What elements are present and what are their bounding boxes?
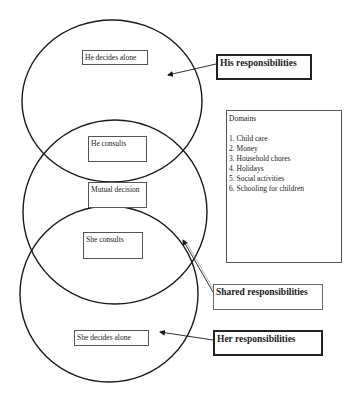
domain-item: 6. Schooling for children: [229, 184, 339, 194]
he-decides-alone-text: He decides alone: [85, 53, 136, 62]
domain-item: 3. Household chores: [229, 154, 339, 164]
her-arrow: [160, 332, 213, 340]
his-arrow: [168, 64, 216, 75]
mutual-decision-text: Mutual decision: [91, 185, 140, 194]
she-decides-alone-box: She decides alone: [74, 330, 149, 346]
domain-item: 4. Holidays: [229, 164, 339, 174]
she-decides-alone-text: She decides alone: [77, 333, 131, 342]
he-consults-box: He consults: [88, 136, 147, 162]
mutual-decision-box: Mutual decision: [88, 182, 147, 208]
his-responsibilities-text: His responsibilities: [220, 58, 297, 68]
her-responsibilities-text: Her responsibilities: [217, 334, 296, 344]
shared-responsibilities-label: Shared responsibilities: [213, 284, 323, 310]
domain-item: 2. Money: [229, 144, 339, 154]
she-consults-box: She consults: [83, 232, 143, 259]
his-responsibilities-label: His responsibilities: [216, 54, 312, 80]
her-responsibilities-label: Her responsibilities: [213, 330, 323, 356]
she-consults-text: She consults: [86, 235, 124, 244]
domains-title: Domains: [229, 114, 339, 124]
domain-item: 5. Social activities: [229, 174, 339, 184]
he-consults-text: He consults: [91, 139, 126, 148]
shared-responsibilities-text: Shared responsibilities: [216, 287, 308, 297]
he-decides-alone-box: He decides alone: [82, 50, 148, 65]
domains-legend: Domains 1. Child care 2. Money 3. Househ…: [226, 110, 342, 263]
domain-item: 1. Child care: [229, 134, 339, 144]
